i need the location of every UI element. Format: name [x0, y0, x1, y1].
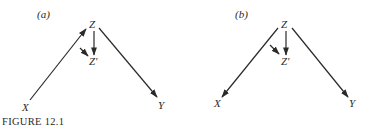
panel-a: (a) Z Z′ X Y: [21, 8, 166, 113]
node-x: X: [213, 97, 222, 109]
panel-a-label: (a): [37, 8, 50, 21]
edge-x-to-z: [30, 29, 86, 100]
node-z-prime: Z′: [281, 55, 290, 67]
node-y: Y: [349, 97, 357, 109]
edge-into-z-prime: [80, 48, 88, 56]
node-x: X: [21, 101, 30, 113]
node-z: Z: [89, 18, 96, 30]
edge-z-to-y: [292, 28, 348, 97]
node-y: Y: [158, 99, 166, 111]
edge-z-to-y: [99, 28, 157, 97]
figure-caption: FIGURE 12.1: [2, 116, 64, 127]
node-z: Z: [281, 18, 288, 30]
panel-b-label: (b): [235, 8, 248, 21]
node-z-prime: Z′: [89, 55, 98, 67]
edge-into-z-prime: [270, 45, 279, 54]
panel-b: (b) Z Z′ X Y: [213, 8, 357, 109]
figure-12-1: (a) Z Z′ X Y (b) Z Z′ X Y FIGURE 12.1: [0, 0, 373, 129]
edge-z-to-x: [222, 28, 278, 97]
